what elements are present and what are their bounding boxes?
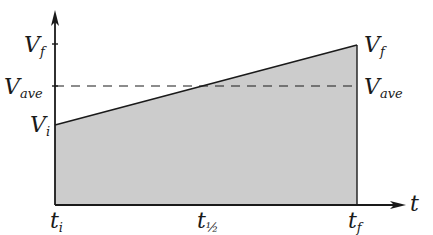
label-vf-right: Vf (364, 34, 385, 58)
label-t-half: t½ (197, 210, 218, 234)
label-vi: Vi (30, 114, 50, 138)
area-under-curve (55, 45, 357, 205)
label-vf-left: Vf (24, 34, 45, 58)
label-vave-right: Vave (364, 76, 403, 100)
label-vave-left: Vave (4, 76, 43, 100)
velocity-time-diagram: Vf Vave Vi Vf Vave ti t½ tf t (0, 0, 433, 235)
label-tf: tf (348, 210, 362, 234)
label-ti: ti (50, 210, 63, 234)
x-axis-label-t: t (410, 193, 419, 215)
